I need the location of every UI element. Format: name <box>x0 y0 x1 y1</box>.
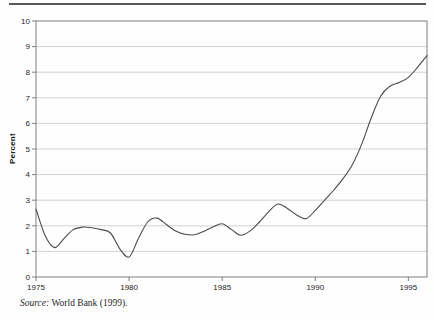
page: 01234567891019751980198519901995 Percent… <box>0 0 434 320</box>
x-tick-label: 1975 <box>27 283 45 292</box>
data-series-line <box>36 56 427 258</box>
line-chart: 01234567891019751980198519901995 <box>0 0 434 320</box>
y-tick-label: 6 <box>26 119 31 128</box>
y-tick-label: 2 <box>26 222 31 231</box>
y-tick-label: 4 <box>26 170 31 179</box>
x-tick-label: 1985 <box>213 283 231 292</box>
x-tick-label: 1980 <box>120 283 138 292</box>
x-tick-label: 1995 <box>399 283 417 292</box>
source-note: Source: World Bank (1999). <box>20 298 127 308</box>
source-label: Source: <box>20 298 49 308</box>
source-text: World Bank (1999). <box>49 298 127 308</box>
x-tick-label: 1990 <box>306 283 324 292</box>
y-axis-title: Percent <box>8 133 17 164</box>
y-tick-label: 5 <box>26 145 31 154</box>
y-tick-label: 1 <box>26 247 31 256</box>
y-tick-label: 7 <box>26 94 31 103</box>
y-tick-label: 0 <box>26 273 31 282</box>
y-tick-label: 8 <box>26 68 31 77</box>
y-tick-label: 3 <box>26 196 31 205</box>
y-tick-label: 10 <box>21 17 30 26</box>
y-tick-label: 9 <box>26 42 31 51</box>
